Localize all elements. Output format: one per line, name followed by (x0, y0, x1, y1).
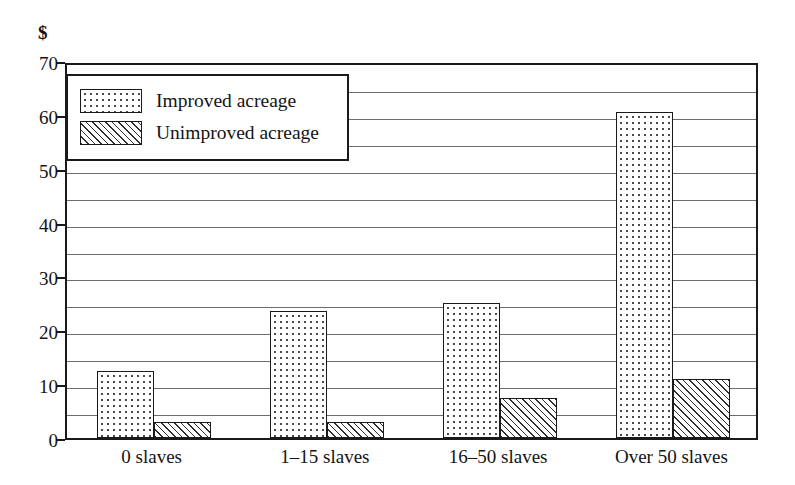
y-axis-tick-label: 0 (14, 431, 58, 450)
y-axis-unit-label: $ (38, 22, 48, 44)
legend-item-improved: Improved acreage (80, 85, 335, 117)
x-axis-category-label: 16–50 slaves (449, 446, 548, 469)
y-axis-tick-mark (57, 170, 65, 172)
y-axis-tick-label: 40 (14, 215, 58, 234)
y-axis-tick-label: 60 (14, 107, 58, 126)
x-axis-category-label: 0 slaves (121, 446, 182, 469)
y-axis-tick-mark (57, 331, 65, 333)
legend-swatch-dotted-icon (80, 89, 142, 113)
y-axis-tick-mark (57, 62, 65, 64)
legend-swatch-hatched-icon (80, 121, 142, 145)
y-axis-tick-marks (57, 63, 65, 440)
y-axis-tick-labels: 010203040506070 (8, 63, 58, 440)
y-axis-tick-mark (57, 277, 65, 279)
y-axis-tick-label: 20 (14, 323, 58, 342)
legend-label-unimproved: Unimproved acreage (156, 123, 319, 143)
chart-legend: Improved acreage Unimproved acreage (66, 74, 349, 161)
y-axis-tick-mark (57, 385, 65, 387)
x-axis-category-label: Over 50 slaves (615, 446, 728, 469)
y-axis-tick-mark (57, 224, 65, 226)
y-axis-tick-label: 70 (14, 54, 58, 73)
x-axis-category-label: 1–15 slaves (280, 446, 369, 469)
bar-chart-figure: $ 010203040506070 0 slaves1–15 slaves16–… (0, 0, 795, 485)
y-axis-tick-mark (57, 116, 65, 118)
y-axis-tick-label: 30 (14, 269, 58, 288)
legend-item-unimproved: Unimproved acreage (80, 117, 335, 149)
bar-unimproved (673, 379, 730, 438)
bar-improved (616, 112, 673, 438)
legend-label-improved: Improved acreage (156, 91, 296, 111)
y-axis-tick-label: 10 (14, 377, 58, 396)
y-axis-tick-label: 50 (14, 161, 58, 180)
y-axis-tick-mark (57, 439, 65, 441)
x-axis-category-labels: 0 slaves1–15 slaves16–50 slavesOver 50 s… (65, 446, 758, 480)
